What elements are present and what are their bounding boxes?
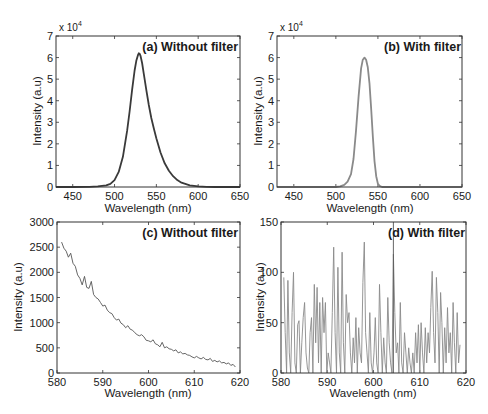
x-tick-label: 620 bbox=[457, 376, 475, 388]
y-tick-label: 1500 bbox=[30, 292, 54, 304]
x-tick-label: 550 bbox=[369, 190, 387, 202]
y-tick-label: 5 bbox=[268, 73, 274, 85]
panel-c-ylabel: Intensity (a.u) bbox=[12, 262, 24, 332]
y-tick-label: 1000 bbox=[30, 317, 54, 329]
y-tick-label: 150 bbox=[260, 216, 278, 228]
x-tick-label: 600 bbox=[364, 376, 382, 388]
y-tick-label: 0 bbox=[268, 181, 274, 193]
y-tick-label: 2 bbox=[268, 138, 274, 150]
y-tick-label: 2 bbox=[47, 138, 53, 150]
y-tick-label: 3 bbox=[268, 116, 274, 128]
x-tick-label: 610 bbox=[185, 376, 203, 388]
panel-a-xlabel: Wavelength (nm) bbox=[104, 202, 191, 214]
y-tick-label: 5 bbox=[47, 73, 53, 85]
y-tick-label: 7 bbox=[268, 30, 274, 42]
y-tick-label: 1 bbox=[47, 159, 53, 171]
y-tick-label: 3 bbox=[47, 116, 53, 128]
panel-c-xlabel: Wavelength (nm) bbox=[104, 387, 191, 399]
x-tick-label: 650 bbox=[231, 190, 249, 202]
y-tick-label: 1 bbox=[268, 159, 274, 171]
panel-d-title: (d) With filter bbox=[388, 226, 465, 240]
y-tick-label: 0 bbox=[272, 367, 278, 379]
x-tick-label: 610 bbox=[411, 376, 429, 388]
x-tick-label: 500 bbox=[105, 190, 123, 202]
panel-a-ylabel: Intensity (a.u) bbox=[31, 76, 43, 146]
y-tick-label: 7 bbox=[47, 30, 53, 42]
y-tick-label: 500 bbox=[36, 342, 54, 354]
y-tick-label: 0 bbox=[47, 181, 53, 193]
y-tick-label: 100 bbox=[260, 266, 278, 278]
panel-c-title: (c) Without filter bbox=[142, 226, 238, 240]
y-tick-label: 50 bbox=[266, 317, 278, 329]
x-tick-label: 450 bbox=[64, 190, 82, 202]
x-tick-label: 600 bbox=[189, 190, 207, 202]
x-tick-label: 590 bbox=[318, 376, 336, 388]
y-tick-label: 4 bbox=[268, 95, 274, 107]
y-tick-label: 2500 bbox=[30, 241, 54, 253]
y-tick-label: 6 bbox=[47, 52, 53, 64]
x-tick-label: 650 bbox=[453, 190, 471, 202]
panel-b-title: (b) With filter bbox=[384, 40, 461, 54]
panel-d-xlabel: Wavelength (nm) bbox=[329, 387, 416, 399]
y-tick-label: 3000 bbox=[30, 216, 54, 228]
y-tick-label: 0 bbox=[48, 367, 54, 379]
x-tick-label: 600 bbox=[411, 190, 429, 202]
x-tick-label: 450 bbox=[285, 190, 303, 202]
y-tick-label: 2000 bbox=[30, 266, 54, 278]
x-tick-label: 590 bbox=[94, 376, 112, 388]
x-tick-label: 600 bbox=[139, 376, 157, 388]
y-tick-label: 4 bbox=[47, 95, 53, 107]
y-tick-label: 6 bbox=[268, 52, 274, 64]
x-tick-label: 620 bbox=[231, 376, 249, 388]
figure: x 104 Intensity (a.u) Wavelength (nm) 45… bbox=[0, 0, 488, 414]
x-tick-label: 550 bbox=[147, 190, 165, 202]
panel-a-title: (a) Without filter bbox=[142, 40, 238, 54]
panel-b-xlabel: Wavelength (nm) bbox=[326, 202, 413, 214]
panel-b-ylabel: Intensity (a.u) bbox=[252, 76, 264, 146]
x-tick-label: 500 bbox=[327, 190, 345, 202]
